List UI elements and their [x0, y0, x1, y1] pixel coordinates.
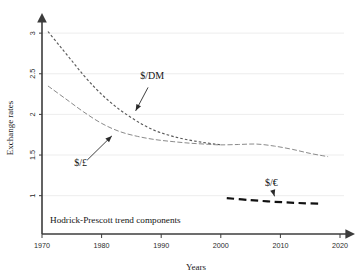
y-tick-label: 3: [28, 31, 37, 35]
x-tick-label: 1980: [94, 241, 110, 250]
series-line-usd-dm: [48, 32, 221, 145]
plot-caption: Hodrick-Prescott trend components: [50, 215, 181, 225]
x-axis-ticks: 197019801990200020102020: [34, 234, 348, 250]
y-tick-label: 2: [28, 112, 37, 116]
series-annotations: $/DM$/£$/€: [74, 70, 278, 196]
x-tick-label: 2010: [272, 241, 288, 250]
gridlines: [42, 33, 344, 196]
y-tick-label: 2.5: [28, 69, 37, 79]
annotation-arrowhead: [136, 104, 141, 111]
y-axis-title: Exchange rates: [5, 100, 15, 155]
annotation-arrowhead: [270, 189, 275, 196]
x-tick-label: 2000: [213, 241, 229, 250]
series-label-dm: $/DM: [140, 70, 164, 81]
y-tick-label: 1.5: [28, 150, 37, 160]
series-label-: $/£: [74, 157, 87, 168]
x-axis-title: Years: [186, 262, 207, 272]
y-tick-label: 1: [28, 194, 37, 198]
y-axis-ticks: 11.522.53: [28, 31, 42, 198]
chart-figure: 11.522.53 197019801990200020102020 $/DM$…: [0, 0, 363, 279]
series-label-: $/€: [265, 177, 278, 188]
x-tick-label: 1970: [34, 241, 50, 250]
exchange-rates-line-chart: 11.522.53 197019801990200020102020 $/DM$…: [0, 0, 363, 279]
x-tick-label: 2020: [332, 241, 348, 250]
series-line-usd-gbp: [48, 86, 328, 157]
series-line-usd-eur: [227, 198, 322, 204]
x-tick-label: 1990: [153, 241, 169, 250]
